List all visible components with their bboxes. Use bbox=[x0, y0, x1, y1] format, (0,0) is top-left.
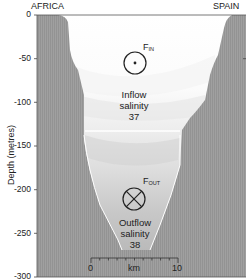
y-tick-100: -100 bbox=[1, 98, 31, 107]
y-tick-250: -250 bbox=[1, 229, 31, 238]
inflow-salinity-label: Inflow salinity 37 bbox=[104, 90, 164, 123]
scale-start-label: 0 bbox=[88, 264, 93, 273]
scale-unit-label: km bbox=[128, 264, 140, 273]
flux-in-subscript: IN bbox=[149, 46, 155, 52]
strait-cross-section-figure: AFRICA SPAIN 0 -50 -100 -150 -200 -250 -… bbox=[0, 0, 246, 279]
y-tick-0: 0 bbox=[1, 10, 31, 19]
flux-out-subscript: OUT bbox=[149, 180, 161, 186]
y-axis-title: Depth (metres) bbox=[6, 120, 16, 190]
spain-label: SPAIN bbox=[213, 2, 239, 11]
inflow-salinity-value: 37 bbox=[104, 112, 164, 123]
y-tick-300: -300 bbox=[1, 272, 31, 279]
flux-in-label: FIN bbox=[143, 43, 154, 53]
outflow-salinity-value: 38 bbox=[105, 240, 165, 251]
scale-end-label: 10 bbox=[172, 264, 182, 273]
africa-label: AFRICA bbox=[31, 2, 64, 11]
y-tick-50: -50 bbox=[1, 54, 31, 63]
outflow-salinity-label: Outflow salinity 38 bbox=[105, 218, 165, 251]
flux-out-label: FOUT bbox=[143, 177, 160, 187]
